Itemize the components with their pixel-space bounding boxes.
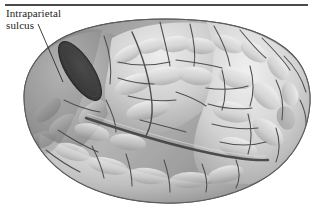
leader-line (38, 24, 63, 82)
leader-line-layer (0, 0, 317, 215)
brain-figure: Intraparietal sulcus (0, 0, 317, 215)
